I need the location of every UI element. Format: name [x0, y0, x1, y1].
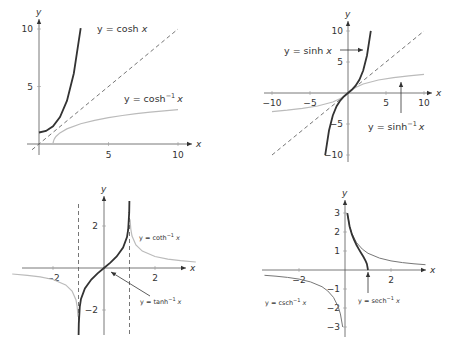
asech-label: y = sech−1x [358, 295, 400, 305]
y-tick-label: 1 [334, 246, 340, 256]
x-tick-label: 10 [418, 98, 430, 108]
y-axis-label: y [344, 9, 351, 19]
y-tick-label: 3 [334, 208, 340, 218]
identity-line [32, 29, 178, 150]
y-tick-label: 5 [27, 82, 33, 92]
plot-asech-acsch: −2 2 3 2 1 −1 −2 −3 x y y = csch−1x y = … [262, 188, 436, 337]
sinh-label: y = sinh x [284, 45, 332, 56]
asinh-label: y = sinh−1x [368, 120, 425, 132]
x-tick-label: 5 [383, 98, 389, 108]
asech-curve [347, 213, 368, 270]
x-axis-label: x [435, 88, 442, 98]
acosh-curve [53, 110, 178, 144]
x-axis-label: x [429, 265, 436, 275]
hyperbolic-functions-figure: 5 10 5 10 x y y = cosh x y = cosh−1x −10… [0, 0, 458, 352]
x-axis-label: x [195, 139, 202, 149]
x-tick-label: 10 [172, 150, 184, 160]
x-axis-label: x [189, 263, 196, 273]
y-tick-label: −2 [85, 305, 98, 315]
y-axis-label: y [341, 188, 348, 198]
y-tick-label: −2 [327, 303, 340, 313]
x-tick-label: 5 [106, 150, 112, 160]
x-tick-label: −10 [263, 98, 282, 108]
y-tick-label: −10 [324, 150, 343, 160]
x-tick-label: 2 [152, 273, 158, 283]
y-axis-label: y [35, 7, 42, 17]
y-axis-label: y [100, 184, 107, 194]
y-tick-label: 10 [332, 26, 344, 36]
plot-atanh-acoth: −2 2 2 −2 x y y = coth−1x y = tanh−1x [12, 184, 196, 335]
acoth-curve-left [12, 274, 78, 317]
acsch-curve-positive [347, 213, 425, 265]
atanh-pointer-arrow [111, 272, 150, 296]
acoth-label: y = coth−1x [139, 232, 180, 242]
cosh-curve [39, 28, 81, 132]
cosh-label: y = cosh x [97, 23, 148, 34]
y-tick-label: −3 [327, 322, 340, 332]
plot-sinh: −10 −5 5 10 10 5 −5 −10 x y y = sinh x y… [263, 9, 443, 162]
y-tick-label: 5 [337, 57, 343, 67]
acsch-label: y = csch−1x [265, 297, 306, 307]
y-tick-label: 2 [334, 227, 340, 237]
y-tick-label: 2 [92, 221, 98, 231]
x-tick-label: 2 [388, 275, 394, 285]
atanh-label: y = tanh−1x [140, 296, 182, 306]
plot-cosh: 5 10 5 10 x y y = cosh x y = cosh−1x [22, 7, 202, 160]
y-tick-label: 10 [22, 24, 34, 34]
acosh-label: y = cosh−1x [124, 92, 183, 104]
